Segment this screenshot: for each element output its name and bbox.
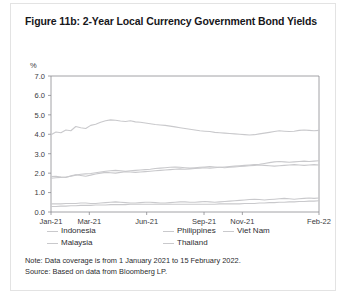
svg-text:6.0: 6.0	[35, 91, 45, 100]
chart-legend: Indonesia Philippines Viet Nam Malaysia …	[47, 226, 329, 250]
legend-item-malaysia[interactable]: Malaysia	[47, 238, 93, 248]
svg-text:1.0: 1.0	[35, 188, 45, 197]
legend-label-thailand: Thailand	[177, 238, 208, 248]
legend-line-icon	[163, 243, 174, 244]
svg-text:Mar-21: Mar-21	[77, 217, 101, 226]
svg-text:Feb-22: Feb-22	[307, 217, 331, 226]
legend-item-indonesia[interactable]: Indonesia	[47, 226, 96, 236]
line-chart-svg: 0.01.02.03.04.05.06.07.0Jan-21Mar-21Jun-…	[11, 4, 337, 234]
figure-card: Figure 11b: 2-Year Local Currency Govern…	[10, 3, 336, 291]
svg-text:Jun-21: Jun-21	[135, 217, 158, 226]
legend-line-icon	[47, 243, 58, 244]
figure-note: Note: Data coverage is from 1 January 20…	[25, 255, 325, 266]
legend-label-malaysia: Malaysia	[61, 238, 93, 248]
legend-item-viet-nam[interactable]: Viet Nam	[223, 226, 270, 236]
legend-item-philippines[interactable]: Philippines	[163, 226, 216, 236]
legend-item-thailand[interactable]: Thailand	[163, 238, 208, 248]
svg-text:5.0: 5.0	[35, 111, 45, 120]
legend-row-1: Indonesia Philippines Viet Nam	[47, 226, 329, 238]
legend-label-viet-nam: Viet Nam	[237, 226, 270, 236]
svg-text:4.0: 4.0	[35, 130, 45, 139]
svg-text:2.0: 2.0	[35, 169, 45, 178]
svg-text:3.0: 3.0	[35, 150, 45, 159]
figure-source: Source: Based on data from Bloomberg LP.	[25, 266, 325, 277]
legend-line-icon	[163, 231, 174, 232]
legend-label-philippines: Philippines	[177, 226, 216, 236]
svg-text:0.0: 0.0	[35, 208, 45, 217]
legend-label-indonesia: Indonesia	[61, 226, 96, 236]
svg-text:Nov-21: Nov-21	[230, 217, 254, 226]
legend-line-icon	[47, 231, 58, 232]
svg-text:7.0: 7.0	[35, 72, 45, 81]
legend-line-icon	[223, 231, 234, 232]
svg-text:Jan-21: Jan-21	[40, 217, 63, 226]
figure-footnotes: Note: Data coverage is from 1 January 20…	[25, 255, 325, 277]
legend-row-2: Malaysia Thailand	[47, 238, 329, 250]
svg-text:Sep-21: Sep-21	[192, 217, 216, 226]
